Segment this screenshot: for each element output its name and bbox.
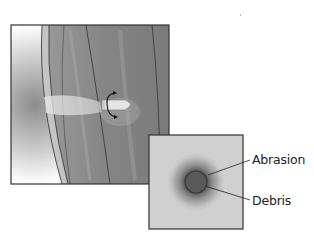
scan-speck: [240, 14, 241, 16]
main-panel: [11, 25, 169, 184]
figure: Abrasion Debris: [0, 0, 314, 240]
abrasion-label: Abrasion: [252, 154, 305, 167]
debris-ring: [185, 171, 207, 193]
inset-panel: [149, 135, 243, 229]
bullet: [102, 100, 131, 110]
debris-label: Debris: [252, 195, 291, 208]
